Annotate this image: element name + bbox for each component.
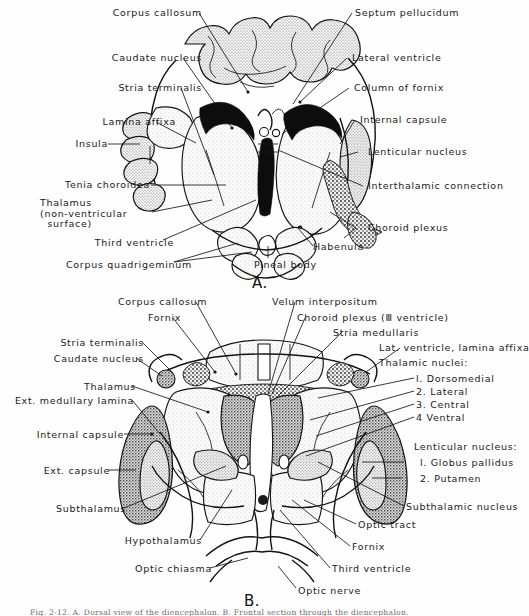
label-corpus-callosum-a: Corpus callosum [78,7,202,18]
label-interthalamic-connection-a: Interthalamic connection [368,180,504,191]
label-lamina-affixa-a: Lamina affixa [48,116,176,127]
thalamic-nucleus-3: 3. Central [416,399,470,410]
label-septum-pellucidum-a: Septum pellucidum [355,7,459,18]
panel-letter-a: A. [252,274,268,292]
thalamic-nucleus-1: l. Dorsomedial [416,373,495,384]
label-thalamus-b: Thalamus [58,381,136,392]
label-caudate-nucleus-b: Caudate nucleus [30,353,144,364]
thalamic-nucleus-2: 2. Lateral [416,386,468,397]
lenticular-nucleus-1: l. Globus pallidus [420,457,514,468]
label-thalamus-a: Thalamus (non-ventricular surface) [40,198,127,230]
label-caudate-nucleus-a: Caudate nucleus [74,52,202,63]
label-lenticular-nucleus-a: Lenticular nucleus [368,146,467,157]
lenticular-nucleus-2: 2. Putamen [420,473,481,484]
label-stria-medullaris-b: Stria medullaris [333,327,419,338]
label-velum-interpositum-b: Velum interpositum [272,296,378,307]
label-subthalamic-nucleus-b: Subthalamic nucleus [406,501,518,512]
figure-page: Corpus callosum Caudate nucleus Stria te… [0,0,529,616]
label-stria-terminalis-b: Stria terminalis [34,337,144,348]
label-insula-a: Insula [38,138,108,149]
label-internal-capsule-b: Internal capsule [16,429,124,440]
label-thalamic-nuclei-heading: Thalamic nuclei: [379,357,468,368]
label-choroid-plexus-third-ventricle-b: Choroid plexus (Ⅲ ventricle) [297,312,449,323]
label-optic-chiasma-b: Optic chiasma [106,563,212,574]
label-optic-tract-b: Optic tract [358,519,416,530]
label-stria-terminalis-a: Stria terminalis [58,82,202,93]
label-internal-capsule-a: Internal capsule [360,114,447,125]
label-ext-medullary-lamina-b: Ext. medullary lamina [8,395,134,406]
thalamic-nucleus-4: 4 Ventral [416,412,465,423]
label-hypothalamus-b: Hypothalamus [102,535,202,546]
label-fornix-b-top: Fornix [148,312,181,323]
label-tenia-choroidea-a: Tenia choroidea [34,179,150,190]
label-lateral-ventricle-a: Lateral ventricle [352,52,441,63]
figure-caption: Fig. 2-12. A. Dorsal view of the diencep… [30,608,409,616]
label-lenticular-nucleus-heading: Lenticular nucleus: [414,441,517,452]
label-lat-ventricle-lamina-affixa-b: Lat. ventricle, lamina affixa [379,342,529,353]
label-pineal-body-a: Pineal body [254,259,317,270]
label-corpus-quadrigeminum-a: Corpus quadrigeminum [66,259,192,270]
label-ext-capsule-b: Ext. capsule [26,465,110,476]
label-subthalamus-b: Subthalamus [36,503,126,514]
label-corpus-callosum-b: Corpus callosum [118,296,207,307]
label-third-ventricle-a: Third ventricle [56,237,174,248]
label-habenula-a: Habenula [313,241,364,252]
label-column-of-fornix-a: Column of fornix [354,82,444,93]
label-optic-nerve-b: Optic nerve [298,585,361,596]
label-third-ventricle-b: Third ventricle [332,563,411,574]
label-fornix-b-right: Fornix [352,541,385,552]
label-choroid-plexus-a: Choroid plexus [368,222,448,233]
